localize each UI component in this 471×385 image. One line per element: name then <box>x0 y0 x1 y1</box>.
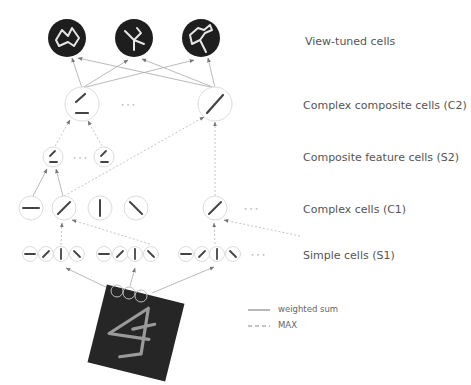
s2-cell-2 <box>94 147 114 167</box>
hmax-model-diagram: • • • • • • <box>0 0 471 385</box>
legend-weighted-sum-label: weighted sum <box>278 304 338 314</box>
c1-cell-diagonal-2 <box>203 196 227 220</box>
view-tuned-cell-1 <box>48 19 86 57</box>
s2-layer: • • • <box>43 147 114 167</box>
view-tuned-cell-2 <box>115 19 153 57</box>
s1-layer: • • • <box>23 247 266 262</box>
view-tuned-layer <box>48 19 220 57</box>
s1-group-3 <box>179 247 241 262</box>
c1-layer: • • • <box>19 196 258 220</box>
input-to-s1-connections <box>66 267 214 293</box>
c1-cell-horizontal <box>19 196 43 220</box>
c1-cell-vertical <box>88 196 112 220</box>
s2-ellipsis: • • • <box>73 154 87 161</box>
label-composite-feature-cells: Composite feature cells (S2) <box>303 151 459 164</box>
c2-cell-2 <box>198 87 232 121</box>
c2-ellipsis: • • • <box>121 101 135 108</box>
c2-cell-1 <box>65 87 99 121</box>
label-view-tuned-cells: View-tuned cells <box>305 35 395 48</box>
legend <box>248 310 270 326</box>
s1-ellipsis: • • • <box>251 251 265 258</box>
s1-group-1 <box>23 247 85 262</box>
c1-cell-anti-diagonal <box>124 196 148 220</box>
c1-ellipsis: • • • <box>244 205 258 212</box>
legend-max-label: MAX <box>278 320 297 330</box>
s1-group-2 <box>97 247 159 262</box>
c1-to-s2-connections <box>33 169 63 196</box>
label-complex-composite-cells: Complex composite cells (C2) <box>303 99 467 112</box>
label-simple-cells: Simple cells (S1) <box>303 249 395 262</box>
s1-to-c1-connections <box>61 220 300 245</box>
s2-cell-1 <box>43 147 63 167</box>
view-tuned-cell-3 <box>182 19 220 57</box>
c2-to-view-tuned-connections <box>72 58 215 88</box>
c1-cell-diagonal <box>52 196 76 220</box>
label-complex-cells: Complex cells (C1) <box>303 203 406 216</box>
c2-layer: • • • <box>65 87 232 121</box>
